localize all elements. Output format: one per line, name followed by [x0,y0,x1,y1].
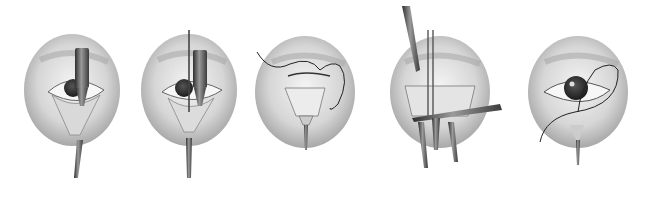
illustration-stage [0,0,647,204]
panel-5 [528,36,628,165]
cautery-probe-icon [193,50,207,88]
panel-4 [390,6,502,168]
panel-3 [255,36,355,150]
retractor-icon [186,138,192,178]
surgical-sequence-figure [0,0,647,204]
cautery-probe-icon [75,48,89,88]
retractor-icon [576,140,580,165]
panel-2 [141,30,237,178]
panel-1 [24,34,120,178]
iris-icon [175,79,193,97]
